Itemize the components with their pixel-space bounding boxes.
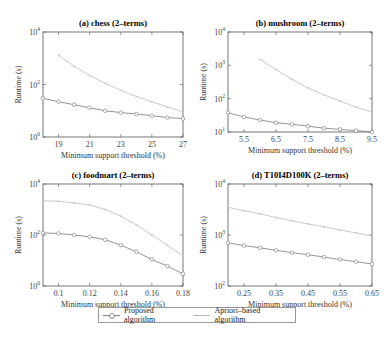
legend-item-apriori: Apriori–based algorithm (193, 306, 289, 324)
legend-label-proposed: Proposed algorithm (124, 306, 183, 324)
svg-text:19: 19 (55, 140, 63, 149)
svg-text:104: 104 (214, 26, 225, 37)
legend-label-apriori: Apriori–based algorithm (214, 306, 289, 324)
svg-text:5.5: 5.5 (239, 135, 249, 144)
chart-title: (d) T10I4D100K (2–terms) (252, 170, 349, 180)
y-axis-label: Runtime (s) (14, 65, 23, 103)
series-apriori (260, 59, 372, 111)
svg-text:102: 102 (29, 79, 40, 90)
x-axis-label: Minimum support threshold (%) (248, 146, 352, 155)
chart-mushroom: (b) mushroom (2–terms)1011021031045.56.5… (199, 18, 377, 155)
svg-text:25: 25 (148, 140, 156, 149)
svg-text:0.25: 0.25 (237, 289, 251, 298)
series-proposed (228, 243, 372, 264)
series-apriori (59, 55, 183, 112)
svg-text:100: 100 (29, 131, 40, 142)
svg-text:0.55: 0.55 (333, 289, 347, 298)
y-axis-label: Runtime (s) (199, 216, 208, 254)
svg-text:8.5: 8.5 (335, 135, 345, 144)
svg-text:0.1: 0.1 (54, 289, 64, 298)
svg-text:101: 101 (214, 126, 225, 137)
series-apriori (43, 201, 183, 256)
svg-text:0.65: 0.65 (365, 289, 379, 298)
series-proposed (43, 98, 183, 118)
y-axis-label: Runtime (s) (14, 216, 23, 254)
chart-foodmart: (c) foodmart (2–terms)1001021040.10.120.… (14, 170, 190, 309)
chart-figure: (a) chess (2–terms)1001021041921232527Mi… (0, 0, 391, 342)
svg-text:100: 100 (29, 280, 40, 291)
svg-text:103: 103 (214, 59, 225, 70)
y-axis-label: Runtime (s) (199, 63, 208, 101)
svg-text:0.12: 0.12 (83, 289, 97, 298)
chart-title: (b) mushroom (2–terms) (256, 18, 345, 28)
series-proposed (43, 233, 183, 274)
chart-chess: (a) chess (2–terms)1001021041921232527Mi… (14, 18, 187, 160)
svg-text:104: 104 (214, 178, 225, 189)
svg-text:9.5: 9.5 (367, 135, 377, 144)
chart-t10i4d100k: (d) T10I4D100K (2–terms)1021031040.250.3… (199, 170, 379, 309)
svg-text:102: 102 (214, 280, 225, 291)
series-proposed (228, 113, 372, 132)
svg-text:0.45: 0.45 (301, 289, 315, 298)
chart-title: (a) chess (2–terms) (79, 18, 147, 28)
series-apriori (228, 207, 372, 236)
svg-text:0.35: 0.35 (269, 289, 283, 298)
svg-text:102: 102 (29, 229, 40, 240)
svg-text:0.14: 0.14 (114, 289, 128, 298)
svg-text:23: 23 (117, 140, 125, 149)
svg-text:6.5: 6.5 (271, 135, 281, 144)
legend-line-apriori (193, 315, 210, 316)
svg-text:104: 104 (29, 26, 40, 37)
svg-text:7.5: 7.5 (303, 135, 313, 144)
svg-text:0.16: 0.16 (145, 289, 159, 298)
legend-item-proposed: Proposed algorithm (103, 306, 183, 324)
svg-text:104: 104 (29, 178, 40, 189)
legend: Proposed algorithm Apriori–based algorit… (98, 307, 296, 323)
svg-text:27: 27 (179, 140, 187, 149)
svg-text:0.18: 0.18 (176, 289, 190, 298)
svg-text:102: 102 (214, 93, 225, 104)
svg-text:103: 103 (214, 229, 225, 240)
legend-line-proposed (103, 315, 120, 316)
svg-text:21: 21 (86, 140, 94, 149)
x-axis-label: Minimum support threshold (%) (61, 151, 165, 160)
chart-title: (c) foodmart (2–terms) (72, 170, 155, 180)
